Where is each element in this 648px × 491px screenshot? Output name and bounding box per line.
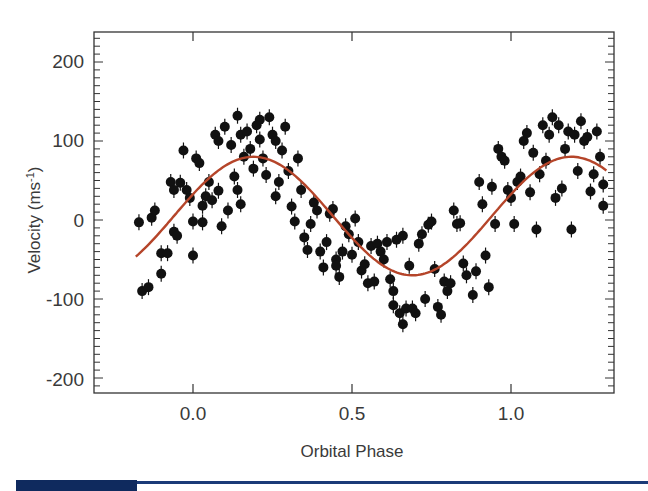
data-point [487, 182, 497, 192]
x-axis-ticks [193, 32, 511, 393]
data-point [477, 199, 487, 209]
data-point [557, 183, 567, 193]
data-point [226, 140, 236, 150]
data-point [411, 308, 421, 318]
data-point [229, 172, 239, 182]
data-point [223, 206, 233, 216]
data-point [264, 112, 274, 122]
plot-frame [94, 32, 614, 393]
data-point [233, 111, 243, 121]
data-point [220, 122, 230, 132]
data-point [287, 202, 297, 212]
y-tick-label-200: 200 [52, 51, 84, 72]
data-point [207, 195, 217, 205]
data-point [586, 187, 596, 197]
footer-block [16, 480, 137, 491]
data-point [398, 231, 408, 241]
radial-velocity-chart: 200 100 0 -100 -200 0.0 0.5 1.0 Orbital … [0, 0, 648, 491]
data-point [315, 247, 325, 257]
data-point [471, 266, 481, 276]
data-point [547, 112, 557, 122]
data-point [481, 251, 491, 261]
data-point [280, 122, 290, 132]
data-point [420, 294, 430, 304]
data-point [188, 251, 198, 261]
data-point [388, 286, 398, 296]
data-point [322, 237, 332, 247]
data-point [449, 206, 459, 216]
data-point [388, 300, 398, 310]
data-point [213, 186, 223, 196]
data-point [217, 221, 227, 231]
data-point [350, 213, 360, 223]
data-point [566, 224, 576, 234]
y-axis-title-close: ) [25, 166, 44, 172]
data-point [474, 177, 484, 187]
data-point [274, 177, 284, 187]
data-point [150, 206, 160, 216]
data-point [271, 191, 281, 201]
data-point [156, 269, 166, 279]
data-point [172, 231, 182, 241]
y-tick-label-100: 100 [52, 130, 84, 151]
data-point [194, 158, 204, 168]
x-axis-title: Orbital Phase [301, 442, 404, 461]
data-point [245, 144, 255, 154]
data-point [427, 217, 437, 227]
data-point [382, 237, 392, 247]
y-tick-label-minus-200: -200 [46, 369, 84, 390]
data-point [188, 217, 198, 227]
data-point [360, 259, 370, 269]
data-points [134, 108, 608, 333]
data-point [500, 156, 510, 166]
data-point [255, 134, 265, 144]
data-point [595, 152, 605, 162]
data-point [163, 248, 173, 258]
data-point [598, 179, 608, 189]
footer-gap [137, 484, 648, 491]
data-point [404, 261, 414, 271]
data-point [455, 218, 465, 228]
data-point [544, 130, 554, 140]
data-point [334, 272, 344, 282]
data-point [337, 247, 347, 257]
data-point [417, 229, 427, 239]
data-point [522, 128, 532, 138]
data-point [484, 282, 494, 292]
y-axis-title: Velocity (ms-1) [24, 166, 44, 273]
data-point [369, 277, 379, 287]
data-point [178, 145, 188, 155]
data-point [573, 166, 583, 176]
data-point [576, 116, 586, 126]
data-point [293, 153, 303, 163]
data-point [385, 274, 395, 284]
data-point [554, 120, 564, 130]
data-point [436, 310, 446, 320]
data-point [296, 185, 306, 195]
data-point [538, 120, 548, 130]
data-point [446, 278, 456, 288]
data-point [261, 170, 271, 180]
y-axis-title-main: Velocity (ms [25, 182, 44, 274]
data-point [143, 282, 153, 292]
data-point [312, 206, 322, 216]
data-point [277, 145, 287, 155]
data-point [509, 219, 519, 229]
data-point [598, 201, 608, 211]
data-point [242, 127, 252, 137]
data-point [468, 290, 478, 300]
data-point [347, 250, 357, 260]
data-point [271, 136, 281, 146]
data-point [582, 132, 592, 142]
data-point [592, 127, 602, 137]
y-tick-label-minus-100: -100 [46, 289, 84, 310]
data-point [213, 136, 223, 146]
y-axis-ticks [94, 38, 614, 386]
data-point [306, 219, 316, 229]
data-point [525, 187, 535, 197]
data-point [528, 148, 538, 158]
x-tick-label-1: 1.0 [498, 403, 524, 424]
data-point [233, 185, 243, 195]
data-point [570, 130, 580, 140]
y-tick-label-0: 0 [73, 210, 84, 231]
